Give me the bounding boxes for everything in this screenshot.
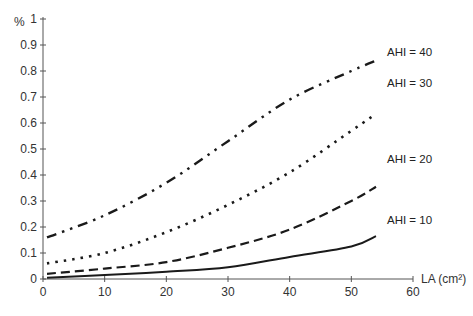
series-label: AHI = 20 [387,153,432,165]
x-tick-label: 60 [406,285,420,299]
series-label: AHI = 30 [387,77,432,89]
y-tick-label: 0.9 [20,38,37,52]
x-axis-title: LA (cm²) [421,272,466,286]
y-tick-label: 0 [30,272,37,286]
series-line-ahi20 [47,187,376,274]
series-line-ahi40 [47,61,376,238]
y-axis-title: % [14,15,25,29]
y-tick-label: 0.1 [20,246,37,260]
series-line-ahi10 [47,236,376,278]
y-tick-label: 1 [30,12,37,26]
y-tick-label: 0.8 [20,64,37,78]
x-tick-label: 30 [221,285,235,299]
series-label: AHI = 40 [387,46,432,58]
line-chart: 00.10.20.30.40.50.60.70.80.9101020304050… [0,0,473,316]
x-tick-label: 10 [98,285,112,299]
y-tick-label: 0.7 [20,90,37,104]
series-line-ahi30 [47,114,376,264]
y-tick-label: 0.6 [20,116,37,130]
y-tick-label: 0.4 [20,168,37,182]
series-label: AHI = 10 [387,214,432,226]
y-tick-label: 0.2 [20,220,37,234]
y-tick-label: 0.5 [20,142,37,156]
series-labels: AHI = 10AHI = 20AHI = 30AHI = 40 [387,46,432,227]
x-tick-label: 40 [283,285,297,299]
y-tick-label: 0.3 [20,194,37,208]
x-tick-label: 50 [345,285,359,299]
x-tick-label: 0 [40,285,47,299]
x-tick-label: 20 [160,285,174,299]
series-lines [47,61,376,278]
